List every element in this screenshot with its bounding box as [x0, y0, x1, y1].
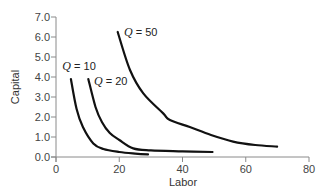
- x-tick-label: 60: [240, 163, 252, 175]
- x-axis: 020406080: [51, 157, 315, 175]
- x-tick-label: 20: [113, 163, 125, 175]
- isoquant-curve-1: [71, 79, 148, 154]
- curve-label: Q = 20: [94, 74, 127, 88]
- y-axis: 0.01.02.03.04.05.06.07.0: [35, 11, 56, 163]
- isoquant-chart: 0.01.02.03.04.05.06.07.0 020406080 Q = 1…: [0, 0, 330, 196]
- y-tick-label: 7.0: [35, 11, 50, 23]
- y-tick-label: 1.0: [35, 131, 50, 143]
- x-tick-label: 80: [303, 163, 315, 175]
- curve-label: Q = 10: [62, 59, 95, 73]
- y-tick-label: 0.0: [35, 151, 50, 163]
- y-tick-label: 4.0: [35, 71, 50, 83]
- curve-label: Q = 50: [124, 25, 157, 39]
- x-tick-label: 0: [53, 163, 59, 175]
- isoquant-curve-3: [118, 32, 277, 147]
- y-tick-label: 6.0: [35, 31, 50, 43]
- curve-labels: Q = 10Q = 20Q = 50: [62, 25, 157, 88]
- x-tick-label: 40: [176, 163, 188, 175]
- y-tick-label: 3.0: [35, 91, 50, 103]
- y-axis-title: Capital: [9, 70, 21, 104]
- x-axis-title: Labor: [169, 176, 197, 188]
- y-tick-label: 5.0: [35, 51, 50, 63]
- isoquant-curve-2: [88, 79, 212, 152]
- isoquant-curves: [71, 32, 277, 154]
- y-tick-label: 2.0: [35, 111, 50, 123]
